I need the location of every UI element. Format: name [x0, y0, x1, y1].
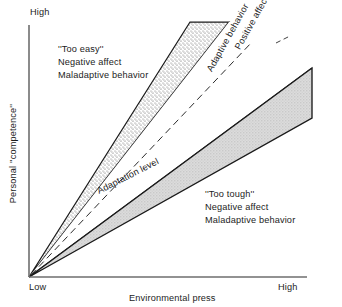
diagram-canvas: [0, 0, 342, 307]
y-axis-title: Personal ''competence'': [7, 104, 20, 203]
y-axis-low-tick: Low: [29, 281, 46, 294]
too-tough-line-3: Maladaptive behavior: [205, 214, 295, 227]
x-axis-title: Environmental press: [129, 292, 216, 305]
zone-label-too-tough: ''Too tough'' Negative affect Maladaptiv…: [205, 188, 295, 227]
y-axis-high-tick: High: [30, 6, 50, 19]
too-easy-line-3: Maladaptive behavior: [58, 69, 148, 82]
too-tough-line-1: ''Too tough'': [205, 188, 295, 201]
too-tough-line-2: Negative affect: [205, 201, 295, 214]
figure-container: High Low High Environmental press Person…: [0, 0, 342, 307]
zone-label-too-easy: ''Too easy'' Negative affect Maladaptive…: [58, 43, 148, 82]
too-easy-line-2: Negative affect: [58, 56, 148, 69]
x-axis-high-tick: High: [278, 281, 298, 294]
too-easy-line-1: ''Too easy'': [58, 43, 148, 56]
